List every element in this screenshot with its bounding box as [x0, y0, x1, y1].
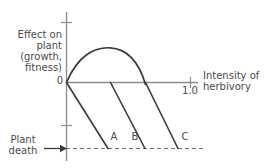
x-axis-title: Intensity of herbivory [203, 70, 265, 92]
plant-death-label: Plant death [2, 134, 44, 156]
overcompensation-curve [67, 48, 146, 85]
curve-label-b: B [128, 131, 142, 142]
curve-label-a: A [107, 131, 121, 142]
curve-line-a [67, 83, 108, 149]
herbivory-effect-figure: Effect on plant (growth, fitness) Intens… [0, 0, 266, 168]
y-axis-title: Effect on plant (growth, fitness) [4, 29, 62, 73]
curve-label-c: C [178, 131, 192, 142]
x-axis-tick-label-1.0: 1.0 [178, 85, 202, 96]
origin-label: 0 [52, 75, 63, 86]
curve-line-c [146, 83, 179, 149]
